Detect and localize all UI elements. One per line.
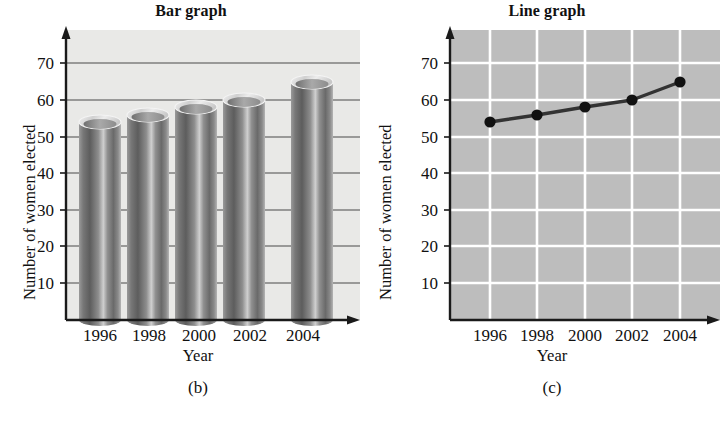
bar-2002 — [223, 93, 265, 326]
bar-ytick-70: 70 — [37, 54, 54, 73]
line-xtick-1998: 1998 — [520, 326, 554, 345]
line-xtick-1996: 1996 — [473, 326, 507, 345]
bar-ytick-30: 30 — [37, 201, 54, 220]
bar-1998 — [127, 108, 169, 326]
bar-xtick-1998: 1998 — [132, 326, 166, 345]
line-y-tick-labels: 10 20 30 40 50 60 70 — [421, 54, 438, 293]
line-xtick-2000: 2000 — [568, 326, 602, 345]
line-graph-x-axis-label: Year — [360, 346, 720, 366]
line-ytick-40: 40 — [421, 164, 438, 183]
line-ytick-30: 30 — [421, 201, 438, 220]
bar-xtick-2002: 2002 — [233, 326, 267, 345]
line-ytick-20: 20 — [421, 237, 438, 256]
line-ytick-60: 60 — [421, 91, 438, 110]
bar-graph-panel-letter: (b) — [0, 378, 360, 398]
bar-ytick-10: 10 — [37, 274, 54, 293]
bar-xtick-2000: 2000 — [182, 326, 216, 345]
line-xtick-2004: 2004 — [663, 326, 698, 345]
line-graph-plot: 10 20 30 40 50 60 70 1996 1998 — [360, 0, 720, 360]
bar-y-tick-labels: 10 20 30 40 50 60 70 — [37, 54, 54, 293]
line-x-tick-labels: 1996 1998 2000 2002 2004 — [473, 326, 698, 345]
bar-graph-plot: 10 20 30 40 50 60 70 — [0, 0, 360, 360]
marker-1996 — [484, 116, 495, 127]
bar-xtick-1996: 1996 — [83, 326, 117, 345]
bar-ytick-20: 20 — [37, 237, 54, 256]
bar-ytick-50: 50 — [37, 128, 54, 147]
marker-2004 — [674, 76, 685, 87]
bar-1996 — [79, 115, 121, 326]
bar-xtick-2004: 2004 — [286, 326, 321, 345]
bar-graph-figure: Bar graph Number of women elected — [0, 0, 360, 423]
bar-ytick-60: 60 — [37, 91, 54, 110]
line-xtick-2002: 2002 — [615, 326, 649, 345]
marker-2002 — [626, 94, 637, 105]
bar-2000 — [175, 100, 217, 326]
line-ytick-70: 70 — [421, 54, 438, 73]
marker-1998 — [531, 109, 542, 120]
bar-graph-x-axis-label: Year — [0, 346, 360, 366]
bar-x-tick-labels: 1996 1998 2000 2002 2004 — [83, 326, 321, 345]
line-ytick-50: 50 — [421, 128, 438, 147]
bar-2004 — [291, 75, 333, 326]
line-graph-panel-letter: (c) — [360, 378, 720, 398]
line-ytick-10: 10 — [421, 274, 438, 293]
line-graph-figure: Line graph Number of women elected — [360, 0, 720, 423]
bar-ytick-40: 40 — [37, 164, 54, 183]
marker-2000 — [579, 101, 590, 112]
